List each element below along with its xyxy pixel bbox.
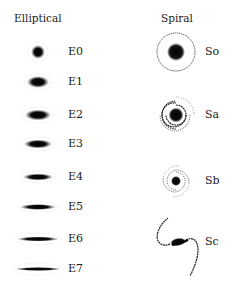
label-e6: E6 [68,233,83,245]
galaxy-e3 [24,140,52,149]
galaxy-sb [163,166,189,197]
label-e0: E0 [68,46,83,58]
label-e4: E4 [68,171,83,183]
galaxy-classification-diagram [0,0,239,287]
label-so: So [205,46,219,58]
galaxy-sc [157,218,198,276]
galaxy-e5 [20,204,56,210]
galaxy-e2 [25,110,51,121]
galaxy-e0 [31,45,45,59]
galaxy-e1 [27,76,49,88]
galaxy-sa [160,97,194,131]
elliptical-galaxies [14,42,62,275]
label-e7: E7 [68,263,83,275]
galaxy-e4 [23,174,53,181]
label-sc: Sc [205,236,219,248]
label-e5: E5 [68,201,83,213]
label-e2: E2 [68,109,83,121]
label-sa: Sa [205,109,219,121]
galaxy-e6 [17,237,59,242]
galaxy-e7 [15,267,61,271]
spiral-galaxies [157,33,198,276]
label-sb: Sb [205,175,220,187]
label-e3: E3 [68,138,83,150]
label-e1: E1 [68,76,83,88]
galaxy-so [157,33,195,71]
